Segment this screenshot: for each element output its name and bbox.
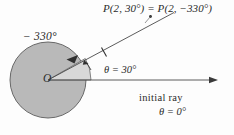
theta-0-label: θ = 0° (159, 106, 186, 117)
initial-ray-label: initial ray (139, 92, 183, 103)
negative-angle-label: − 330° (23, 30, 57, 42)
theta-30-label: θ = 30° (104, 64, 136, 75)
point-equation-label: P(2, 30°) = P(2, −330°) (103, 3, 212, 15)
polar-angle-diagram: − 330° P(2, 30°) = P(2, −330°) θ = 30° O… (0, 0, 234, 135)
initial-ray-arrowhead (209, 77, 218, 83)
point-p-leader-line (145, 17, 151, 24)
origin-label: O (43, 72, 51, 84)
